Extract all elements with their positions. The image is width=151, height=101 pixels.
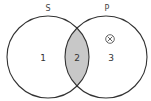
region-label-2: 2 <box>74 53 80 63</box>
set-label-p: P <box>105 4 110 13</box>
circled-x-icon <box>106 35 115 44</box>
region-label-3: 3 <box>108 53 114 63</box>
set-label-s: S <box>45 4 50 13</box>
region-label-1: 1 <box>40 53 46 63</box>
venn-diagram: S P 1 2 3 <box>0 0 151 101</box>
